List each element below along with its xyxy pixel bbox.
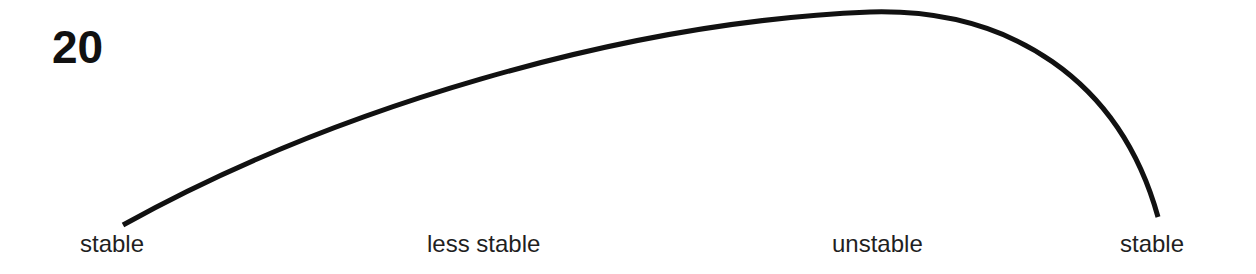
label-less-stable: less stable bbox=[427, 230, 540, 258]
stability-arc-path bbox=[123, 12, 1158, 225]
label-stable-right: stable bbox=[1120, 230, 1184, 258]
label-stable-left: stable bbox=[80, 230, 144, 258]
label-unstable: unstable bbox=[832, 230, 923, 258]
stability-curve bbox=[0, 0, 1256, 274]
